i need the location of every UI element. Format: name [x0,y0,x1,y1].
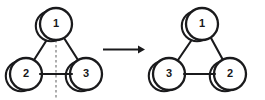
arrow-head [138,46,145,54]
node-3-left-label: 3 [83,67,89,79]
bond-1-2 [211,38,223,60]
figure-container: 1 2 3 [0,0,265,100]
node-3-right-label: 3 [166,67,172,79]
transformation-arrow [103,46,145,54]
bond-1-3 [64,38,78,60]
product-structure: 1 3 2 [149,8,246,91]
node-1-left-label: 1 [53,17,59,29]
bond-1-3 [178,38,193,60]
node-2-left: 2 [6,58,42,91]
node-1-right-label: 1 [199,17,205,29]
reactant-structure: 1 2 3 [6,8,102,98]
node-3-right: 3 [149,58,185,91]
reaction-diagram: 1 2 3 [0,0,265,100]
node-1-left: 1 [36,8,72,41]
node-2-right-label: 2 [227,67,233,79]
node-1-right: 1 [182,8,218,41]
node-2-left-label: 2 [23,67,29,79]
